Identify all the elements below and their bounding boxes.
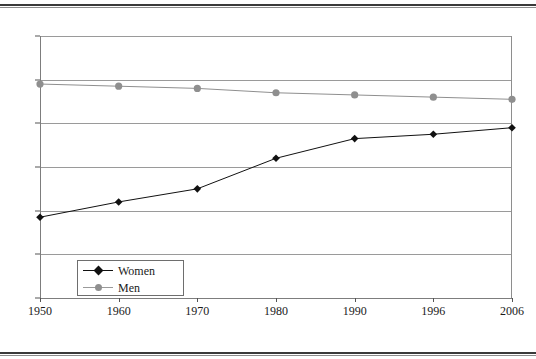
legend-key-women <box>78 263 118 279</box>
y-tick-mark <box>35 254 40 255</box>
x-tick-mark <box>512 298 513 302</box>
legend-entry-men: Men <box>78 279 183 296</box>
plot-area <box>40 36 512 298</box>
gridline <box>40 211 512 212</box>
legend-label-men: Men <box>118 282 140 294</box>
legend-entry-women: Women <box>78 262 183 279</box>
page-canvas: 020406080100120 195019601970198019901996… <box>0 0 536 359</box>
y-tick-mark <box>35 210 40 211</box>
y-axis-line <box>40 36 41 298</box>
chart-legend: Women Men <box>77 260 184 296</box>
y-tick-mark <box>35 79 40 80</box>
gridline <box>40 80 512 81</box>
gridline <box>40 123 512 124</box>
gridline <box>40 254 512 255</box>
x-tick-label: 1980 <box>264 304 288 319</box>
y-tick-mark <box>35 36 40 37</box>
x-tick-mark <box>40 298 41 302</box>
circle-marker-icon <box>95 284 102 291</box>
x-tick-mark <box>119 298 120 302</box>
x-tick-label: 1996 <box>421 304 445 319</box>
x-tick-mark <box>433 298 434 302</box>
x-tick-mark <box>355 298 356 302</box>
gridline <box>40 167 512 168</box>
y-tick-mark <box>35 123 40 124</box>
x-tick-mark <box>197 298 198 302</box>
x-tick-label: 2006 <box>500 304 524 319</box>
x-tick-mark <box>276 298 277 302</box>
y-tick-mark <box>35 167 40 168</box>
line-chart: 020406080100120 195019601970198019901996… <box>0 0 536 359</box>
gridline <box>40 36 512 37</box>
x-tick-label: 1970 <box>185 304 209 319</box>
plot-right-border <box>511 36 512 298</box>
legend-label-women: Women <box>118 265 155 277</box>
x-tick-label: 1990 <box>343 304 367 319</box>
diamond-marker-icon <box>94 265 104 275</box>
x-tick-label: 1960 <box>107 304 131 319</box>
x-tick-label: 1950 <box>28 304 52 319</box>
legend-key-men <box>78 280 118 296</box>
